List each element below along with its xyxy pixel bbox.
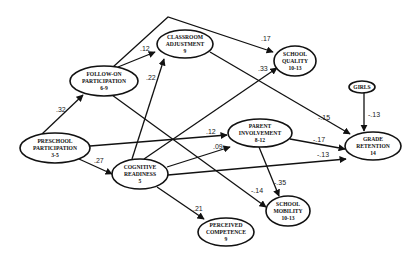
path-diagram: FOLLOW-ONPARTICIPATION6-9CLASSROOMADJUST… <box>0 0 418 261</box>
node-label-line3: 10-13 <box>281 215 294 221</box>
edge-cognitive-to-grade_retention <box>168 159 346 175</box>
node-label-line1: PERCEIVED <box>210 222 243 228</box>
node-label-line1: CLASSROOM <box>167 34 204 40</box>
edge-cognitive-to-parent <box>167 147 230 167</box>
node-label-line3: 10-13 <box>288 65 301 71</box>
node-label-line1: PRESCHOOL <box>37 138 72 144</box>
edge-preschool-to-parent <box>90 135 227 146</box>
node-label-line1: COGNITIVE <box>124 164 157 170</box>
node-label-line3: 3-5 <box>51 152 59 158</box>
node-follow_on: FOLLOW-ONPARTICIPATION6-9 <box>70 66 138 96</box>
node-label-line1: PARENT <box>249 123 272 129</box>
coefficient-label: .09 <box>213 143 223 150</box>
coefficient-label: .27 <box>94 157 104 164</box>
edge-cognitive-to-perceived <box>157 187 204 219</box>
node-label-line1: GIRLS <box>353 84 370 90</box>
coefficient-label: .22 <box>146 74 156 81</box>
node-label-line2: ADJUSTMENT <box>166 41 205 47</box>
coefficient-label: -.35 <box>274 179 286 186</box>
node-label-line3: 9 <box>184 48 187 54</box>
edge-follow_on-to-classroom <box>118 52 155 67</box>
coefficient-label: -.17 <box>313 136 325 143</box>
node-label-line2: PARTICIPATION <box>82 78 126 84</box>
coefficient-label: -.13 <box>368 111 380 118</box>
node-school_quality: SCHOOLQUALITY10-13 <box>274 46 316 76</box>
node-girls: GIRLS <box>349 81 375 93</box>
node-grade_retention: GRADERETENTION14 <box>345 132 401 160</box>
node-perceived: PERCEIVEDCOMPETENCE9 <box>198 218 254 246</box>
coefficient-label: .17 <box>261 35 271 42</box>
coefficient-label: -.13 <box>317 151 329 158</box>
node-label-line2: RETENTION <box>356 143 390 149</box>
coefficient-label: .12 <box>206 128 216 135</box>
node-label-line3: 5 <box>139 178 142 184</box>
node-cognitive: COGNITIVEREADINESS5 <box>112 159 168 189</box>
coefficient-label: .12 <box>140 45 150 52</box>
node-label-line3: 6-9 <box>100 85 108 91</box>
node-label-line2: COMPETENCE <box>206 229 246 235</box>
coefficient-label: -.15 <box>318 114 330 121</box>
node-label-line2: MOBILITY <box>273 208 302 214</box>
node-label-line2: PARTICIPATION <box>33 145 77 151</box>
node-school_mobility: SCHOOLMOBILITY10-13 <box>266 196 310 226</box>
coefficient-label: -.14 <box>251 187 263 194</box>
node-label-line2: INVOLVEMENT <box>239 130 282 136</box>
node-classroom: CLASSROOMADJUSTMENT9 <box>157 30 213 58</box>
node-label-line3: 14 <box>370 150 376 156</box>
node-parent: PARENTINVOLVEMENT8-12 <box>228 119 292 147</box>
edge-preschool-to-follow_on <box>42 95 83 134</box>
node-label-line1: SCHOOL <box>283 51 307 57</box>
node-label-line2: QUALITY <box>282 58 308 64</box>
node-label-line1: GRADE <box>363 136 383 142</box>
coefficient-label: .21 <box>193 205 203 212</box>
coefficient-label: .32 <box>56 106 66 113</box>
node-preschool: PRESCHOOLPARTICIPATION3-5 <box>20 133 90 163</box>
node-label-line2: READINESS <box>124 171 156 177</box>
node-label-line3: 8-12 <box>255 137 265 143</box>
node-label-line1: SCHOOL <box>276 201 300 207</box>
coefficient-label: .33 <box>258 65 268 72</box>
node-label-line3: 9 <box>225 236 228 242</box>
nodes-layer: FOLLOW-ONPARTICIPATION6-9CLASSROOMADJUST… <box>20 30 401 246</box>
node-label-line1: FOLLOW-ON <box>86 71 121 77</box>
